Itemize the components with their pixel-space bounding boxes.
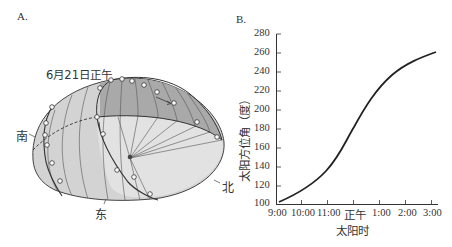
y-tick-220: 220 bbox=[254, 84, 270, 95]
y-tick-180: 180 bbox=[254, 122, 270, 133]
y-tick-240: 240 bbox=[254, 65, 270, 76]
x-tick-9: 9:00 bbox=[268, 207, 287, 218]
x-tick-2: 2:00 bbox=[398, 207, 417, 218]
y-tick-160: 160 bbox=[254, 141, 270, 152]
y-tick-120: 120 bbox=[254, 179, 270, 190]
y-tick-140: 140 bbox=[254, 160, 270, 171]
y-tick-260: 260 bbox=[254, 46, 270, 57]
y-tick-200: 200 bbox=[254, 103, 270, 114]
azimuth-curve bbox=[279, 52, 436, 202]
x-axis-title: 太阳时 bbox=[336, 222, 369, 238]
x-tick-noon: 正午 bbox=[344, 206, 366, 222]
x-tick-1: 1:00 bbox=[372, 207, 391, 218]
y-tick-280: 280 bbox=[254, 27, 270, 38]
x-tick-10: 10:00 bbox=[291, 207, 315, 218]
x-tick-3: 3:00 bbox=[423, 207, 442, 218]
y-axis-title: 太阳方位角（度） bbox=[236, 94, 252, 182]
x-tick-11: 11:00 bbox=[317, 207, 341, 218]
